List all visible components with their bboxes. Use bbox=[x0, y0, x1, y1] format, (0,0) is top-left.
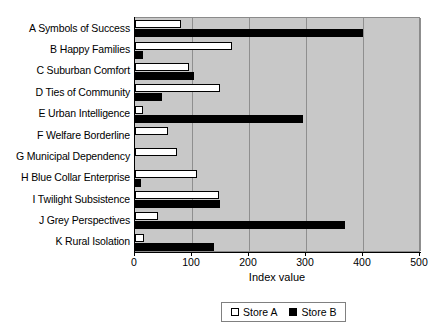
bar-store-b bbox=[135, 200, 220, 208]
bar-store-a bbox=[135, 148, 177, 156]
bar-store-b bbox=[135, 243, 214, 251]
bar-store-b bbox=[135, 115, 303, 123]
bar-store-b bbox=[135, 221, 345, 229]
x-tick-label: 200 bbox=[228, 256, 268, 268]
white-square-swatch-icon bbox=[231, 308, 239, 316]
gridline-500 bbox=[420, 18, 421, 251]
bar-store-a bbox=[135, 42, 232, 50]
bar-store-b bbox=[135, 179, 141, 187]
plot-area bbox=[134, 17, 420, 252]
bar-group bbox=[135, 146, 419, 167]
legend-entry-store-a: Store A bbox=[231, 306, 277, 318]
chart-legend: Store A Store B bbox=[221, 302, 346, 322]
category-label: J Grey Perspectives bbox=[0, 214, 130, 226]
bar-store-a bbox=[135, 170, 197, 178]
bar-chart: A Symbols of SuccessB Happy FamiliesC Su… bbox=[0, 0, 442, 334]
bar-group bbox=[135, 18, 419, 39]
bar-group bbox=[135, 39, 419, 60]
x-tick-label: 500 bbox=[399, 256, 439, 268]
bar-store-a bbox=[135, 191, 219, 199]
bar-group bbox=[135, 189, 419, 210]
category-axis-labels: A Symbols of SuccessB Happy FamiliesC Su… bbox=[0, 17, 130, 252]
bar-store-b bbox=[135, 72, 194, 80]
category-label: D Ties of Community bbox=[0, 86, 130, 98]
category-label: B Happy Families bbox=[0, 43, 130, 55]
bar-store-a bbox=[135, 106, 143, 114]
black-square-swatch-icon bbox=[289, 308, 297, 316]
bar-store-b bbox=[135, 51, 143, 59]
category-label: C Suburban Comfort bbox=[0, 64, 130, 76]
category-label: G Municipal Dependency bbox=[0, 150, 130, 162]
legend-label-store-b: Store B bbox=[301, 306, 336, 318]
x-axis-tick-labels: 0100200300400500 bbox=[134, 252, 420, 268]
bar-group bbox=[135, 82, 419, 103]
y-axis-line bbox=[134, 17, 135, 253]
x-tick-label: 100 bbox=[171, 256, 211, 268]
bar-store-b bbox=[135, 93, 162, 101]
bar-store-b bbox=[135, 29, 363, 37]
legend-entry-store-b: Store B bbox=[289, 306, 336, 318]
x-axis-title: Index value bbox=[134, 271, 420, 284]
bar-group bbox=[135, 61, 419, 82]
x-tick-label: 0 bbox=[114, 256, 154, 268]
category-label: K Rural Isolation bbox=[0, 235, 130, 247]
bar-store-a bbox=[135, 127, 168, 135]
bar-group bbox=[135, 103, 419, 124]
bar-store-a bbox=[135, 234, 144, 242]
category-label: I Twilight Subsistence bbox=[0, 193, 130, 205]
legend-label-store-a: Store A bbox=[243, 306, 277, 318]
x-tick-label: 300 bbox=[285, 256, 325, 268]
bar-group bbox=[135, 210, 419, 231]
bar-store-a bbox=[135, 63, 189, 71]
bar-group bbox=[135, 232, 419, 253]
category-label: H Blue Collar Enterprise bbox=[0, 171, 130, 183]
bar-rows bbox=[135, 18, 419, 251]
bar-store-a bbox=[135, 20, 181, 28]
category-label: E Urban Intelligence bbox=[0, 107, 130, 119]
bar-store-a bbox=[135, 84, 220, 92]
category-label: A Symbols of Success bbox=[0, 22, 130, 34]
bar-group bbox=[135, 168, 419, 189]
category-label: F Welfare Borderline bbox=[0, 129, 130, 141]
bar-store-a bbox=[135, 212, 158, 220]
x-tick-label: 400 bbox=[342, 256, 382, 268]
bar-group bbox=[135, 125, 419, 146]
